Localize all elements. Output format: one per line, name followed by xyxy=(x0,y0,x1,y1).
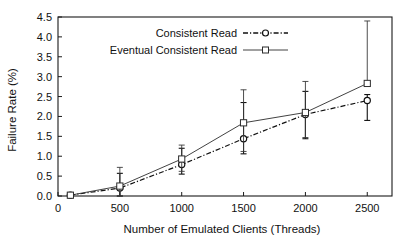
y-tick-label: 1.0 xyxy=(37,150,52,162)
x-axis-title: Number of Emulated Clients (Threads) xyxy=(124,223,321,235)
x-tick-label: 1500 xyxy=(231,202,255,214)
y-tick-label: 0.5 xyxy=(37,170,52,182)
data-point-square xyxy=(240,120,246,126)
data-point-circle xyxy=(364,97,370,103)
y-axis-title: Failure Rate (%) xyxy=(6,68,18,152)
y-tick-label: 4.0 xyxy=(37,31,52,43)
failure-rate-chart: 0.00.51.01.52.02.53.03.54.04.5 050010001… xyxy=(0,0,405,242)
data-point-square xyxy=(364,80,370,86)
legend-label: Eventual Consistent Read xyxy=(110,44,237,56)
x-tick-label: 500 xyxy=(111,202,129,214)
x-tick-label: 2000 xyxy=(293,202,317,214)
legend-marker-square xyxy=(263,47,269,53)
chart-legend: Consistent ReadEventual Consistent Read xyxy=(110,27,288,56)
x-tick-label: 2500 xyxy=(355,202,379,214)
y-tick-label: 2.0 xyxy=(37,110,52,122)
x-tick-label: 0 xyxy=(55,202,61,214)
y-tick-label: 4.5 xyxy=(37,11,52,23)
x-tick-label: 1000 xyxy=(169,202,193,214)
legend-marker-circle xyxy=(263,30,269,36)
y-tick-label: 3.0 xyxy=(37,71,52,83)
y-tick-label: 0.0 xyxy=(37,190,52,202)
data-point-square xyxy=(117,183,123,189)
data-point-square xyxy=(302,109,308,115)
series-line xyxy=(70,101,367,196)
x-axis-ticks: 05001000150020002500 xyxy=(55,192,380,214)
y-tick-label: 2.5 xyxy=(37,91,52,103)
figure-container: 0.00.51.01.52.02.53.03.54.04.5 050010001… xyxy=(0,0,405,242)
data-point-square xyxy=(179,156,185,162)
series-line xyxy=(70,83,367,195)
y-tick-label: 3.5 xyxy=(37,51,52,63)
y-tick-label: 1.5 xyxy=(37,130,52,142)
data-point-square xyxy=(67,192,73,198)
legend-label: Consistent Read xyxy=(156,27,237,39)
